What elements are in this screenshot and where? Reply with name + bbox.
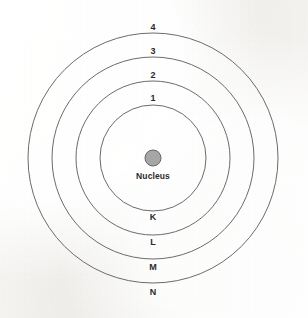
shell-number-label-4: 4 — [150, 23, 155, 32]
nucleus-icon — [145, 150, 161, 166]
shell-number-label-1: 1 — [150, 94, 155, 103]
bohr-model-diagram: 1K2L3M4N Nucleus — [0, 0, 308, 318]
shell-letter-label-n: N — [150, 288, 157, 297]
shell-letter-label-k: K — [150, 213, 157, 222]
shell-number-label-3: 3 — [150, 47, 155, 56]
shell-letter-label-m: M — [149, 263, 157, 272]
shell-number-label-2: 2 — [150, 71, 155, 80]
nucleus-label: Nucleus — [136, 172, 170, 181]
shell-letter-label-l: L — [150, 238, 156, 247]
